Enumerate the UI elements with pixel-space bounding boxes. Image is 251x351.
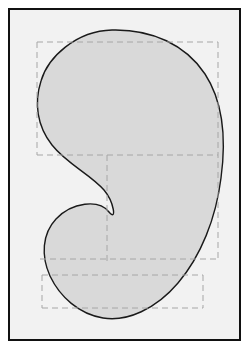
figure-page <box>0 0 251 351</box>
figure-canvas <box>0 0 251 351</box>
